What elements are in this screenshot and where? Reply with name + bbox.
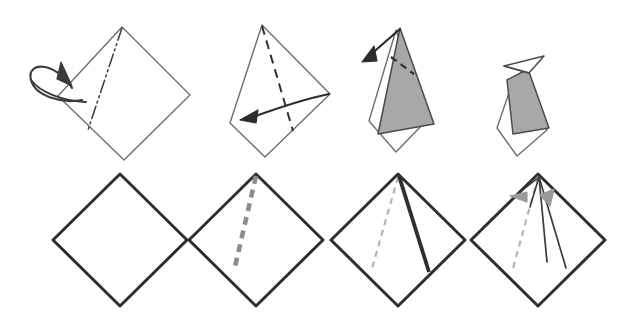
origami-diagram-canvas: Origami folding sequence diagram Eight-p… [0, 0, 635, 323]
origami-figure: Origami folding sequence diagram Eight-p… [0, 0, 635, 323]
